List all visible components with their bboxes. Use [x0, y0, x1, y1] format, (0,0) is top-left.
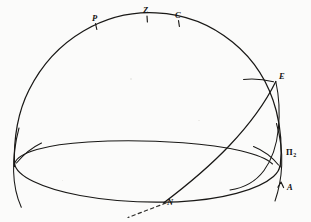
label-plane-pi2-glyph: Π: [286, 147, 293, 157]
label-node: N: [167, 198, 173, 207]
meridian-great-circle: [14, 13, 281, 167]
diagram-svg: [0, 0, 311, 222]
left-arc-stub: [17, 143, 42, 163]
label-culmination: C: [175, 11, 181, 20]
ascending-arrowhead-icon: [278, 182, 284, 188]
culmination-tick: [179, 21, 180, 27]
label-plane-pi2-subscript: 2: [293, 152, 296, 158]
label-east-point: E: [279, 72, 285, 81]
horizon-circle-front: [15, 164, 280, 203]
node-dashed-line: [128, 203, 166, 218]
label-zenith: Z: [143, 6, 148, 15]
label-pole: P: [92, 14, 97, 23]
horizon-circle-back: [15, 141, 273, 164]
label-plane-pi2: Π2: [286, 148, 296, 157]
label-ascending-node-arrow: A: [287, 183, 293, 192]
east-arc-stub: [244, 79, 274, 82]
figure-canvas: P Z C E Π2 A N: [0, 0, 311, 222]
